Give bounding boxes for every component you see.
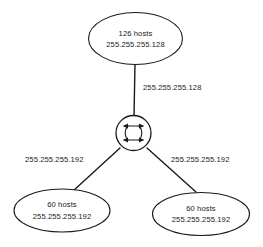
- network-diagram: 126 hosts 255.255.255.128 60: [0, 0, 263, 247]
- top-subnet-mask-label: 255.255.255.128: [106, 40, 165, 49]
- link-line-top: [134, 64, 135, 117]
- left-subnet-ellipse: [14, 189, 110, 232]
- node-switch[interactable]: [116, 116, 151, 151]
- node-top-subnet[interactable]: 126 hosts 255.255.255.128: [89, 13, 183, 65]
- right-subnet-mask-label: 255.255.255.192: [172, 215, 231, 224]
- link-label-right: 255.255.255.192: [171, 155, 230, 164]
- switch-circle: [116, 116, 151, 151]
- node-right-subnet[interactable]: 60 hosts 255.255.255.192: [153, 193, 250, 236]
- node-left-subnet[interactable]: 60 hosts 255.255.255.192: [14, 189, 110, 232]
- right-subnet-hosts-label: 60 hosts: [186, 204, 216, 213]
- topology-canvas: 126 hosts 255.255.255.128 60: [0, 0, 263, 247]
- link-label-top: 255.255.255.128: [143, 83, 202, 92]
- left-subnet-mask-label: 255.255.255.192: [33, 212, 92, 221]
- top-subnet-hosts-label: 126 hosts: [119, 29, 153, 38]
- right-subnet-ellipse: [153, 193, 250, 236]
- top-subnet-ellipse: [89, 13, 183, 65]
- left-subnet-hosts-label: 60 hosts: [47, 200, 77, 209]
- link-label-left: 255.255.255.192: [25, 155, 84, 164]
